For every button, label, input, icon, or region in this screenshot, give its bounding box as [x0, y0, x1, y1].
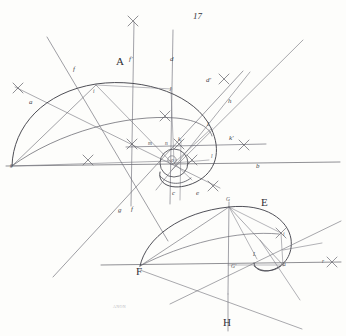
- label-i-lower: i: [283, 232, 285, 238]
- label-f-prime: f': [129, 56, 132, 63]
- label-n: n: [165, 141, 168, 147]
- label-L-upper: L: [207, 122, 210, 128]
- axis-vertical-G: [228, 202, 229, 294]
- cross-mark-d-prime: [219, 74, 229, 84]
- label-G: G: [226, 197, 230, 203]
- cross-mark-mid-upper: [160, 111, 170, 121]
- ray-F-descending: [140, 270, 302, 329]
- engraving-plate: 17 A E f a f' d i J d' h L k' l b m n k …: [0, 0, 346, 336]
- label-L-lower: L: [253, 252, 256, 258]
- label-j: J: [169, 87, 171, 93]
- chord-i-o: [96, 85, 173, 164]
- label-d-prime: d': [206, 77, 211, 84]
- axis-vertical-o: [180, 140, 181, 200]
- arc-closure-E: [254, 266, 281, 271]
- label-d: d: [170, 56, 174, 63]
- label-b: b: [256, 163, 260, 170]
- label-g-origin: g: [10, 163, 13, 169]
- label-g-lower: g: [118, 207, 122, 214]
- arc-g-to-J: [12, 117, 212, 166]
- label-o: o: [171, 158, 174, 164]
- label-c: c: [172, 190, 175, 197]
- figure-label-A: A: [116, 56, 124, 67]
- cross-mark-k-prime: [239, 140, 249, 150]
- figure-label-E: E: [261, 197, 268, 208]
- ray-a: [15, 87, 220, 188]
- label-a-lower: a: [283, 262, 286, 268]
- label-k-prime: k': [229, 135, 234, 142]
- cross-mark-top: [128, 16, 138, 26]
- cross-mark-a-left: [13, 83, 23, 93]
- label-i: i: [93, 89, 95, 95]
- label-F: F: [136, 266, 142, 277]
- chord-i-J: [96, 85, 172, 89]
- label-a: a: [29, 99, 33, 106]
- ray-a-oblique: [260, 240, 300, 300]
- plate-linework: [0, 0, 346, 336]
- label-h: h: [228, 98, 232, 105]
- label-r: r: [322, 259, 324, 265]
- label-G-prime: G': [231, 264, 236, 270]
- label-e: e: [196, 190, 199, 197]
- label-m: m: [148, 141, 152, 147]
- label-l: l: [211, 154, 213, 160]
- page-number: 17: [193, 12, 202, 21]
- engraver-signature: ANON: [113, 305, 126, 309]
- ray-g: [53, 71, 243, 277]
- chord-G-i: [229, 207, 281, 233]
- label-k: k: [178, 137, 180, 143]
- label-H: H: [223, 317, 231, 328]
- label-f-upper-left: f: [73, 66, 75, 73]
- label-f-lower: f: [131, 206, 133, 213]
- axis-vertical-f-prime: [131, 22, 134, 206]
- ray-f: [47, 37, 168, 241]
- chord-o-bottom: [174, 163, 192, 180]
